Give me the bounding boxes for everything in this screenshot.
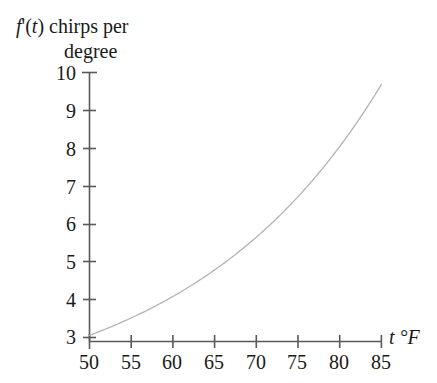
y-axis-group — [82, 72, 97, 342]
data-curve — [90, 84, 382, 335]
plot-area — [0, 0, 437, 383]
x-axis-group — [89, 334, 381, 349]
chart-figure: f'(t) chirps per degree 10 9 8 7 6 5 4 3… — [0, 0, 437, 383]
